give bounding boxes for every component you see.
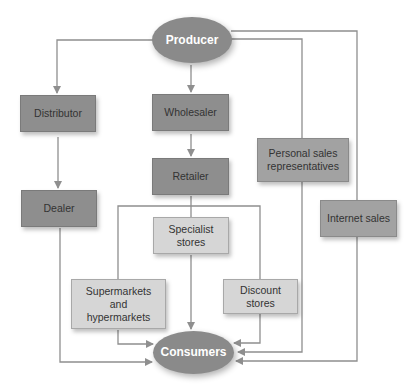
node-discount-stores: Discount stores: [223, 279, 298, 314]
node-producer: Producer: [152, 17, 232, 63]
node-dealer: Dealer: [21, 190, 97, 227]
node-supermarkets: Supermarkets and hypermarkets: [71, 279, 166, 329]
node-specialist-stores: Specialist stores: [153, 217, 229, 254]
node-wholesaler: Wholesaler: [152, 94, 229, 131]
edge-discount-consumers: [234, 314, 260, 343]
edge-personal-consumers: [238, 182, 302, 352]
node-personal-sales: Personal sales representatives: [257, 138, 349, 182]
edge-producer-personal: [230, 39, 302, 138]
node-distributor: Distributor: [20, 95, 96, 132]
node-consumers: Consumers: [153, 331, 234, 374]
node-retailer: Retailer: [152, 158, 229, 195]
edge-producer-distributor: [57, 40, 153, 93]
edge-supermarkets-consumers: [118, 330, 153, 344]
node-internet-sales: Internet sales: [320, 200, 397, 237]
